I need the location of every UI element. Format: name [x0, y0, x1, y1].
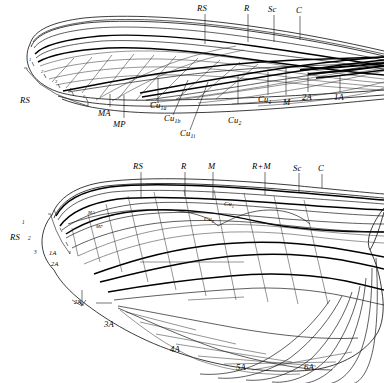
lower-rs-number-3: 3 — [34, 249, 37, 255]
upper-wing-longitudinal-veins — [33, 19, 384, 106]
lower-label-r-plus-m: R+M — [251, 161, 271, 171]
lower-label-3a: 3A — [103, 319, 114, 329]
wing-venation-svg: RS R Sc C RS 1 2 3 4 5 MA MP Cu1a Cu1b C… — [0, 0, 384, 383]
upper-label-rs-bracket: RS — [19, 95, 30, 105]
upper-rs-number-2: 2 — [41, 69, 44, 74]
upper-label-rs-top: RS — [196, 3, 207, 13]
lower-label-2a: 2A — [51, 260, 59, 267]
lower-label-rs-bracket: RS — [9, 232, 20, 242]
upper-label-sc: Sc — [268, 4, 277, 14]
upper-rs-number-5: 5 — [83, 94, 86, 99]
upper-rs-number-1: 1 — [29, 57, 32, 62]
lower-label-rs-top: RS — [132, 161, 143, 171]
lower-label-2aa: 2Aa — [74, 298, 85, 307]
lower-label-4a: 4A — [170, 344, 180, 354]
upper-wing-rs-bracket — [24, 68, 88, 106]
lower-label-6a: 6A — [304, 362, 314, 372]
lower-label-mp: MP — [95, 224, 103, 229]
upper-label-c: C — [296, 5, 302, 15]
lower-wing-longitudinal-veins — [56, 185, 384, 305]
upper-wing-top-leaders — [205, 14, 300, 44]
upper-label-m: M — [282, 97, 291, 107]
lower-label-5a: 5A — [236, 362, 246, 372]
lower-label-ma: MA — [87, 210, 95, 215]
upper-rs-number-3: 3 — [55, 79, 58, 84]
lower-label-c: C — [318, 163, 324, 173]
upper-label-cu1b: Cu1b — [164, 113, 181, 124]
upper-wing-rs-branch-ticks — [32, 62, 88, 102]
upper-label-1a: 1A — [334, 92, 344, 102]
upper-label-cu1i: Cu1i — [180, 128, 196, 139]
upper-label-cu2: Cu2 — [228, 115, 242, 126]
upper-label-ma: MA — [97, 108, 111, 118]
lower-wing-anal-fan-veins — [118, 258, 377, 383]
lower-rs-number-1: 1 — [22, 219, 25, 225]
upper-label-r: R — [243, 3, 250, 13]
wing-venation-figure: RS R Sc C RS 1 2 3 4 5 MA MP Cu1a Cu1b C… — [0, 0, 384, 383]
lower-label-sc: Sc — [293, 163, 302, 173]
lower-label-cu1: Cu1 — [224, 200, 234, 209]
lower-label-m: M — [207, 161, 216, 171]
lower-label-cu2: Cu2 — [204, 215, 215, 224]
lower-wing-panel: RS R M R+M Sc C RS 1 2 3 MA MP Cu1 Cu2 1… — [9, 161, 384, 383]
lower-rs-number-2: 2 — [28, 235, 31, 241]
upper-wing-panel: RS R Sc C RS 1 2 3 4 5 MA MP Cu1a Cu1b C… — [19, 3, 384, 139]
upper-label-cu1: Cu1 — [258, 94, 272, 105]
lower-label-1a: 1A — [49, 249, 57, 256]
lower-label-r: R — [180, 161, 187, 171]
upper-label-mp: MP — [112, 119, 126, 129]
upper-label-2a: 2A — [302, 92, 312, 102]
